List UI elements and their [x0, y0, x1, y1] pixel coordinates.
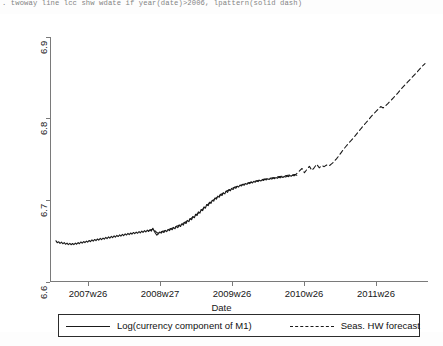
x-tick-label-2009w26: 2009w26 — [213, 288, 252, 299]
x-tick-mark — [88, 282, 89, 286]
x-axis-title: Date — [0, 302, 443, 313]
x-tick-label-2011w26: 2011w26 — [357, 288, 395, 299]
legend-entry-forecast: Seas. HW forecast — [290, 315, 420, 336]
graph-canvas: 6.9 6.8 6.7 6.6 2007w26 2008w27 2009w26 … — [0, 14, 443, 332]
legend-key-dashed-line-icon — [290, 321, 334, 331]
legend-label-forecast: Seas. HW forecast — [341, 320, 420, 331]
y-tick-label-69: 6.9 — [38, 41, 49, 54]
plot-area — [50, 37, 428, 282]
x-tick-mark — [160, 282, 161, 286]
y-tick-label-68: 6.8 — [38, 122, 49, 135]
x-tick-label-2010w26: 2010w26 — [285, 288, 324, 299]
series-line-observed — [56, 175, 297, 245]
x-tick-mark — [304, 282, 305, 286]
x-tick-label-2007w26: 2007w26 — [69, 288, 108, 299]
x-tick-mark — [376, 282, 377, 286]
chart-legend: Log(currency component of M1) Seas. HW f… — [58, 314, 420, 337]
y-tick-label-67: 6.7 — [38, 204, 49, 217]
series-line-forecast — [148, 64, 425, 234]
y-tick-label-66: 6.6 — [38, 286, 49, 299]
series-canvas — [51, 37, 429, 282]
y-tick-mark — [46, 282, 50, 283]
legend-key-solid-line-icon — [66, 321, 110, 331]
legend-entry-observed: Log(currency component of M1) — [66, 315, 252, 336]
stata-command-echo: . twoway line lcc shw wdate if year(date… — [2, 0, 442, 9]
x-tick-label-2008w27: 2008w27 — [141, 288, 180, 299]
x-tick-mark — [232, 282, 233, 286]
legend-label-observed: Log(currency component of M1) — [117, 320, 252, 331]
stata-graph-window: . twoway line lcc shw wdate if year(date… — [0, 0, 443, 346]
